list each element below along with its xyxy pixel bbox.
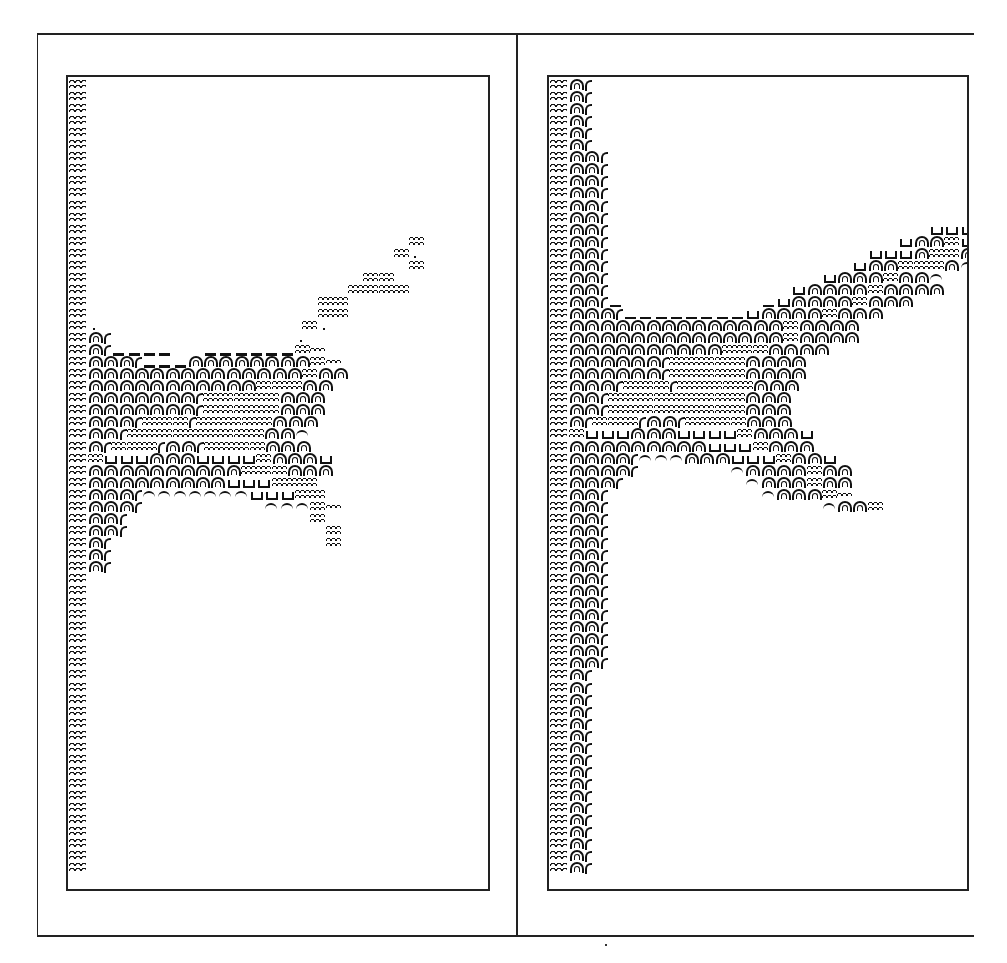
blank-cell xyxy=(134,248,149,260)
blank-cell xyxy=(264,525,279,537)
water-edge-glyph xyxy=(549,380,569,392)
shoreline-dash-glyph xyxy=(234,344,249,356)
open-water-glyph xyxy=(699,404,714,416)
partial-land-glyph xyxy=(584,91,592,103)
blank-cell xyxy=(134,320,149,332)
open-water-glyph xyxy=(684,368,699,380)
open-water-glyph xyxy=(700,416,715,428)
open-water-glyph xyxy=(256,465,271,477)
cup-glyph xyxy=(791,284,806,296)
water-edge-glyph xyxy=(549,368,569,380)
blank-cell xyxy=(173,332,188,344)
land-arch-glyph xyxy=(288,416,303,428)
shoreline-dash-glyph xyxy=(608,296,623,308)
land-arch-glyph xyxy=(569,404,584,416)
partial-land-glyph xyxy=(600,296,608,308)
land-arch-glyph xyxy=(745,368,760,380)
blank-cell xyxy=(256,272,271,284)
blank-cell xyxy=(684,260,699,272)
land-arch-glyph xyxy=(569,248,584,260)
land-arch-glyph xyxy=(134,392,149,404)
blank-cell xyxy=(203,513,218,525)
land-arch-glyph xyxy=(600,465,615,477)
partial-land-glyph xyxy=(600,585,608,597)
blank-cell xyxy=(195,308,210,320)
open-water-glyph xyxy=(868,501,883,513)
blank-cell xyxy=(730,296,745,308)
water-edge-glyph xyxy=(549,453,569,465)
open-water-glyph xyxy=(318,308,333,320)
blank-cell xyxy=(241,284,256,296)
land-arch-glyph xyxy=(165,441,180,453)
blank-cell xyxy=(195,296,210,308)
water-edge-glyph xyxy=(549,296,569,308)
land-arch-glyph xyxy=(569,694,584,706)
land-arch-glyph xyxy=(584,392,599,404)
land-arch-glyph xyxy=(88,525,103,537)
arch-top-glyph xyxy=(295,501,310,513)
land-arch-glyph xyxy=(569,513,584,525)
partial-land-glyph xyxy=(119,428,127,440)
water-edge-glyph xyxy=(549,416,569,428)
land-arch-glyph xyxy=(761,416,776,428)
blank-cell xyxy=(149,296,164,308)
land-arch-glyph xyxy=(180,380,195,392)
arch-top-glyph xyxy=(173,489,188,501)
cup-glyph xyxy=(226,453,241,465)
arch-top-glyph xyxy=(654,453,669,465)
blank-cell xyxy=(761,248,776,260)
land-arch-glyph xyxy=(822,284,837,296)
land-arch-glyph xyxy=(600,380,615,392)
blank-cell xyxy=(684,224,699,236)
blank-cell xyxy=(256,248,271,260)
land-arch-glyph xyxy=(783,344,798,356)
land-arch-glyph xyxy=(745,404,760,416)
land-arch-glyph xyxy=(569,633,584,645)
land-arch-glyph xyxy=(88,368,103,380)
arch-top-glyph xyxy=(960,260,970,272)
partial-land-glyph xyxy=(630,453,638,465)
land-arch-glyph xyxy=(584,501,599,513)
open-water-glyph xyxy=(333,308,348,320)
water-edge-glyph xyxy=(68,404,88,416)
blank-cell xyxy=(134,272,149,284)
water-edge-glyph xyxy=(68,236,88,248)
open-water-glyph xyxy=(684,404,699,416)
water-edge-glyph xyxy=(68,742,88,754)
land-arch-glyph xyxy=(584,224,599,236)
water-edge-glyph xyxy=(68,790,88,802)
blank-cell xyxy=(883,224,898,236)
water-edge-glyph xyxy=(68,597,88,609)
land-arch-glyph xyxy=(103,525,118,537)
blank-cell xyxy=(654,260,669,272)
land-arch-glyph xyxy=(584,404,599,416)
land-arch-glyph xyxy=(776,465,791,477)
blank-cell xyxy=(218,525,233,537)
water-edge-glyph xyxy=(549,320,569,332)
land-arch-glyph xyxy=(569,91,584,103)
blank-cell xyxy=(134,308,149,320)
water-edge-glyph xyxy=(549,826,569,838)
arch-top-glyph xyxy=(234,489,249,501)
blank-cell xyxy=(272,308,287,320)
open-water-glyph xyxy=(272,465,287,477)
dot-glyph xyxy=(295,332,310,344)
blank-cell xyxy=(226,308,241,320)
land-arch-glyph xyxy=(569,489,584,501)
blank-cell xyxy=(883,236,898,248)
water-edge-glyph xyxy=(68,200,88,212)
blank-cell xyxy=(142,525,157,537)
blank-cell xyxy=(623,284,638,296)
blank-cell xyxy=(134,296,149,308)
blank-cell xyxy=(623,501,638,513)
water-edge-glyph xyxy=(549,392,569,404)
water-edge-glyph xyxy=(549,597,569,609)
blank-cell xyxy=(149,320,164,332)
water-edge-glyph xyxy=(549,850,569,862)
blank-cell xyxy=(210,284,225,296)
land-arch-glyph xyxy=(791,368,806,380)
blank-cell xyxy=(638,236,653,248)
blank-cell xyxy=(654,284,669,296)
land-arch-glyph xyxy=(791,296,806,308)
shoreline-dash-glyph xyxy=(280,344,295,356)
